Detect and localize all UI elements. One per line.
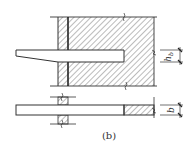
cantilever-beam-drawing: hb b (b) — [0, 0, 196, 151]
figure-caption: (b) — [102, 130, 116, 141]
dimension-label-hb: hb — [163, 52, 174, 62]
tapered-beam — [16, 50, 124, 62]
beam-embedded-hatch — [124, 105, 154, 115]
elevation-view: hb — [16, 13, 183, 90]
plan-view: b — [16, 93, 183, 128]
dimension-label-b: b — [166, 107, 176, 113]
beam-plan — [16, 105, 124, 115]
wall-section-top — [58, 97, 68, 105]
